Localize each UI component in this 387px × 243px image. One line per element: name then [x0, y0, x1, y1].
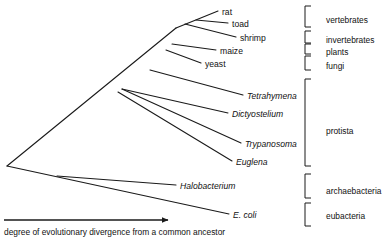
taxon-label: rat	[222, 8, 232, 17]
taxon-label: toad	[232, 20, 249, 29]
taxon-label: Euglena	[236, 158, 268, 167]
taxon-label: yeast	[205, 60, 226, 69]
group-label: protista	[326, 127, 353, 135]
group-label: eubacteria	[326, 212, 365, 220]
group-label: plants	[326, 48, 348, 56]
taxon-label: E. coli	[233, 211, 256, 220]
taxon-label: Halobacterium	[180, 182, 235, 191]
taxon-label: Tetrahymena	[247, 92, 297, 101]
group-label: fungi	[326, 62, 344, 70]
group-label: invertebrates	[326, 36, 374, 44]
group-label: vertebrates	[326, 16, 368, 24]
group-label: archaebacteria	[326, 187, 381, 195]
taxon-label: Dictyostelium	[232, 110, 283, 119]
axis-caption: degree of evolutionary divergence from a…	[4, 228, 225, 236]
taxon-label: maize	[220, 47, 243, 56]
taxon-label: Trypanosoma	[245, 140, 297, 149]
taxon-label: shrimp	[240, 34, 266, 43]
